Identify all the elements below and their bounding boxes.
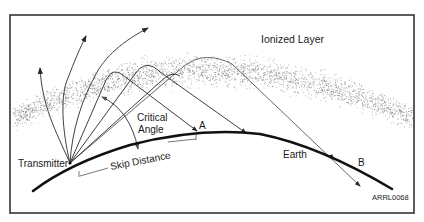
critical-label: Critical	[137, 112, 168, 123]
ionized-layer-label: Ionized Layer	[261, 33, 325, 45]
angle-label: Angle	[138, 124, 164, 135]
point-b-label: B	[358, 157, 365, 168]
earth-label: Earth	[283, 149, 307, 160]
point-a-label: A	[199, 120, 206, 131]
figure-id-label: ARRL0068	[372, 193, 409, 202]
transmitter-point	[68, 161, 71, 164]
transmitter-label: Transmitter	[18, 158, 69, 169]
figure-frame	[10, 15, 414, 213]
skip-propagation-diagram: Ionized Layer Critical Angle A Transmitt…	[0, 0, 424, 222]
